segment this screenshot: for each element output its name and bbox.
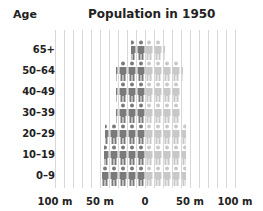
person-icon: [128, 145, 136, 166]
female-bar: [145, 61, 183, 82]
person-icon: [154, 82, 162, 103]
person-icon: [154, 145, 162, 166]
male-bar: [102, 166, 145, 187]
person-icon: [137, 166, 145, 187]
person-icon: [172, 61, 180, 82]
x-tick-label: 0: [142, 196, 149, 207]
person-icon: [145, 166, 153, 187]
person-icon: [110, 166, 118, 187]
person-icon: [145, 103, 153, 124]
person-icon: [145, 82, 153, 103]
person-icon: [181, 145, 186, 166]
person-icon: [172, 103, 180, 124]
person-icon: [181, 124, 186, 145]
person-icon: [137, 82, 145, 103]
age-label: 20–29: [22, 128, 55, 139]
person-icon: [163, 61, 171, 82]
gridline: [82, 30, 83, 188]
gridline: [73, 30, 74, 188]
gridline: [217, 30, 218, 188]
age-label: 0–9: [36, 170, 55, 181]
person-icon: [116, 103, 118, 124]
person-icon: [119, 103, 127, 124]
x-tick-label: 50 m: [176, 196, 204, 207]
person-icon: [110, 124, 118, 145]
person-icon: [119, 166, 127, 187]
gridline: [64, 30, 65, 188]
person-icon: [154, 124, 162, 145]
male-bar: [131, 40, 145, 61]
gridline: [100, 30, 101, 188]
age-label: 50–64: [22, 65, 55, 76]
gridline: [91, 30, 92, 188]
female-bar: [145, 145, 186, 166]
person-icon: [145, 145, 153, 166]
person-icon: [119, 124, 127, 145]
person-icon: [128, 166, 136, 187]
person-icon: [163, 124, 171, 145]
person-icon: [137, 61, 145, 82]
female-bar: [145, 40, 165, 61]
x-tick-label: 100 m: [218, 196, 253, 207]
person-icon: [104, 145, 109, 166]
gridline: [199, 30, 200, 188]
person-icon: [163, 166, 171, 187]
x-tick-label: 100 m: [38, 196, 73, 207]
person-icon: [128, 124, 136, 145]
gridline: [226, 30, 227, 188]
gridline: [208, 30, 209, 188]
person-icon: [116, 82, 118, 103]
person-icon: [128, 61, 136, 82]
person-icon: [172, 82, 180, 103]
female-bar: [145, 82, 181, 103]
person-icon: [131, 40, 136, 61]
male-bar: [105, 124, 145, 145]
person-icon: [119, 82, 127, 103]
person-icon: [181, 166, 186, 187]
person-icon: [137, 145, 145, 166]
gridline: [55, 30, 56, 188]
person-icon: [119, 61, 127, 82]
person-icon: [172, 145, 180, 166]
male-bar: [116, 61, 145, 82]
person-icon: [154, 61, 162, 82]
person-icon: [172, 124, 180, 145]
gridline: [190, 30, 191, 188]
person-icon: [137, 40, 145, 61]
person-icon: [128, 82, 136, 103]
person-icon: [137, 103, 145, 124]
person-icon: [105, 124, 109, 145]
person-icon: [181, 61, 183, 82]
person-icon: [119, 145, 127, 166]
person-icon: [145, 124, 153, 145]
person-icon: [154, 40, 162, 61]
person-icon: [145, 40, 153, 61]
x-tick-label: 50 m: [86, 196, 114, 207]
male-bar: [104, 145, 145, 166]
gridline: [235, 30, 236, 188]
person-icon: [145, 61, 153, 82]
chart-title: Population in 1950: [88, 7, 215, 21]
female-bar: [145, 124, 186, 145]
person-icon: [172, 166, 180, 187]
person-icon: [163, 82, 171, 103]
person-icon: [163, 103, 171, 124]
person-icon: [110, 145, 118, 166]
person-icon: [128, 103, 136, 124]
person-icon: [137, 124, 145, 145]
age-label: 30–39: [22, 107, 55, 118]
age-label: 65+: [33, 44, 55, 55]
age-axis-title: Age: [13, 8, 37, 21]
person-icon: [116, 61, 118, 82]
female-bar: [145, 103, 181, 124]
person-icon: [163, 145, 171, 166]
female-bar: [145, 166, 186, 187]
age-label: 10–19: [22, 149, 55, 160]
age-label: 40–49: [22, 86, 55, 97]
person-icon: [154, 103, 162, 124]
male-bar: [116, 103, 145, 124]
person-icon: [163, 40, 165, 61]
person-icon: [154, 166, 162, 187]
male-bar: [116, 82, 145, 103]
person-icon: [102, 166, 109, 187]
